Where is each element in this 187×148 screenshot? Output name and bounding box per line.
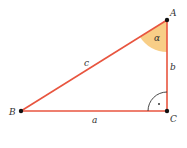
vertex-c-label: C — [170, 114, 177, 124]
side-a-label: a — [92, 115, 97, 125]
side-c — [21, 20, 167, 111]
vertex-b-point — [19, 109, 23, 113]
side-b-label: b — [170, 62, 176, 72]
vertex-a-point — [165, 18, 169, 22]
vertex-b-label: B — [8, 107, 16, 117]
angle-alpha-label: α — [154, 33, 160, 43]
vertex-c-point — [165, 109, 169, 113]
right-angle-arc — [148, 92, 167, 111]
side-c-label: c — [84, 58, 89, 68]
right-angle-dot — [158, 103, 160, 105]
vertex-a-label: A — [169, 8, 177, 18]
right-triangle-diagram: A B C c a b α — [0, 0, 187, 148]
